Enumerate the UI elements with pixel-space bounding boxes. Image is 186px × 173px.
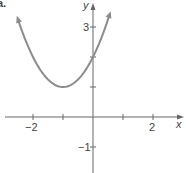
panel-label: a. xyxy=(0,0,6,9)
parabola-curve xyxy=(18,15,110,87)
parabola-chart xyxy=(0,0,186,173)
y-tick-label-neg1: −1 xyxy=(78,141,91,153)
curve-arrow-icon xyxy=(106,11,112,19)
x-tick-label-neg2: −2 xyxy=(25,121,38,133)
y-axis-arrow-icon xyxy=(91,3,96,10)
x-tick-label-2: 2 xyxy=(149,121,155,133)
curve-arrow-icon xyxy=(16,16,22,24)
curve-arrowheads xyxy=(16,11,111,23)
y-axis-label: y xyxy=(83,0,89,11)
x-axis-label: x xyxy=(176,118,182,130)
y-tick-label-3: 3 xyxy=(83,21,89,33)
